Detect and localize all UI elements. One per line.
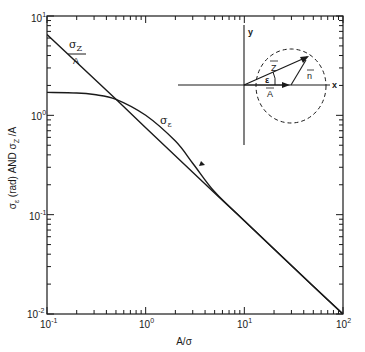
- inset-x-label: x: [332, 80, 337, 90]
- inset-diagram: [178, 25, 330, 145]
- y-axis-title: σε (rad) AND σZ /A: [7, 126, 20, 209]
- x-tick-label: 10-1: [40, 317, 57, 330]
- inset-epsilon-label: ε: [265, 75, 270, 85]
- vector-a-arrowhead-icon: [282, 82, 290, 88]
- y-tick-label: 10-1: [29, 209, 46, 222]
- sigma-z-annotation: σZ A: [68, 38, 86, 66]
- x-tick-labels: 10-1 100 101 102: [40, 317, 351, 330]
- inset-a-label: A: [267, 89, 273, 99]
- inset-n-label: n: [307, 71, 312, 81]
- y-tick-label: 101: [31, 11, 46, 24]
- vector-n: [291, 60, 306, 85]
- curve-marker-icon: [199, 161, 205, 166]
- x-tick-label: 102: [336, 317, 351, 330]
- x-tick-label: 100: [139, 317, 154, 330]
- inset-z-label: Z: [271, 63, 277, 73]
- inset-y-label: y: [248, 27, 253, 37]
- x-axis-title: A/σ: [176, 336, 192, 347]
- sigma-z-label: σZ: [69, 38, 83, 53]
- sigma-epsilon-label: σε: [160, 114, 172, 129]
- chart-figure: 10-1 100 101 102 101 100 10-1 10-2 A/σ σ…: [0, 0, 365, 352]
- inset-dashed-circle: [256, 49, 326, 123]
- sigma-z-denominator: A: [73, 56, 79, 66]
- epsilon-angle-arc: [273, 72, 275, 85]
- x-tick-label: 101: [237, 317, 252, 330]
- y-tick-label: 100: [31, 109, 46, 122]
- sigma-epsilon-curve: [47, 92, 343, 314]
- y-tick-labels: 101 100 10-1 10-2: [27, 11, 46, 320]
